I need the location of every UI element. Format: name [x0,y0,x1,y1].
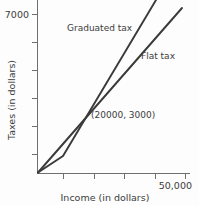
tax-comparison-chart: 7000 50,000 Income (in dollars) Taxes (i… [0,0,199,205]
x-axis-tick-label-50000: 50,000 [159,180,192,191]
annotation-intersection-point: (20000, 3000) [91,110,155,120]
series-label-flat-tax: Flat tax [141,51,176,61]
chart-canvas: 7000 50,000 Income (in dollars) Taxes (i… [0,0,199,205]
series-label-graduated-tax: Graduated tax [67,23,133,33]
x-axis-title: Income (in dollars) [61,192,150,203]
y-axis-tick-label-7000: 7000 [5,9,29,20]
y-axis-title: Taxes (in dollars) [6,60,17,141]
